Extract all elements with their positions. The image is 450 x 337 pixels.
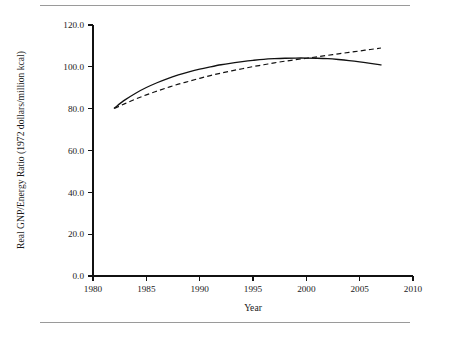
figure-container: 0.020.040.060.080.0100.0120.0 1980198519… — [0, 0, 450, 337]
x-tick-label: 1995 — [244, 284, 263, 294]
x-tick-label: 2010 — [404, 284, 423, 294]
x-tick-label: 2005 — [350, 284, 369, 294]
x-tick-group — [93, 276, 413, 281]
y-tick-group — [88, 25, 93, 276]
y-axis: 0.020.040.060.080.0100.0120.0 — [63, 20, 93, 281]
y-axis-title: Real GNP/Energy Ratio (1972 dollars/mill… — [15, 51, 27, 249]
x-tick-label: 1980 — [84, 284, 103, 294]
x-tick-label: 1985 — [137, 284, 156, 294]
series-solid-curve — [114, 58, 381, 108]
y-tick-label: 100.0 — [63, 62, 84, 72]
y-tick-label: 80.0 — [68, 104, 84, 114]
x-tick-label-group: 1980198519901995200020052010 — [84, 284, 423, 294]
y-tick-label: 120.0 — [63, 20, 84, 30]
x-tick-label: 1990 — [190, 284, 209, 294]
x-tick-label: 2000 — [297, 284, 316, 294]
y-tick-label: 40.0 — [68, 188, 84, 198]
x-axis: 1980198519901995200020052010 — [84, 276, 423, 294]
y-tick-label: 60.0 — [68, 146, 84, 156]
series-dashed-curve — [114, 48, 381, 108]
y-tick-label-group: 0.020.040.060.080.0100.0120.0 — [63, 20, 84, 281]
y-tick-label: 0.0 — [73, 271, 85, 281]
x-axis-title: Year — [244, 302, 262, 313]
y-tick-label: 20.0 — [68, 229, 84, 239]
line-chart: 0.020.040.060.080.0100.0120.0 1980198519… — [0, 0, 450, 337]
series-group — [114, 48, 381, 108]
